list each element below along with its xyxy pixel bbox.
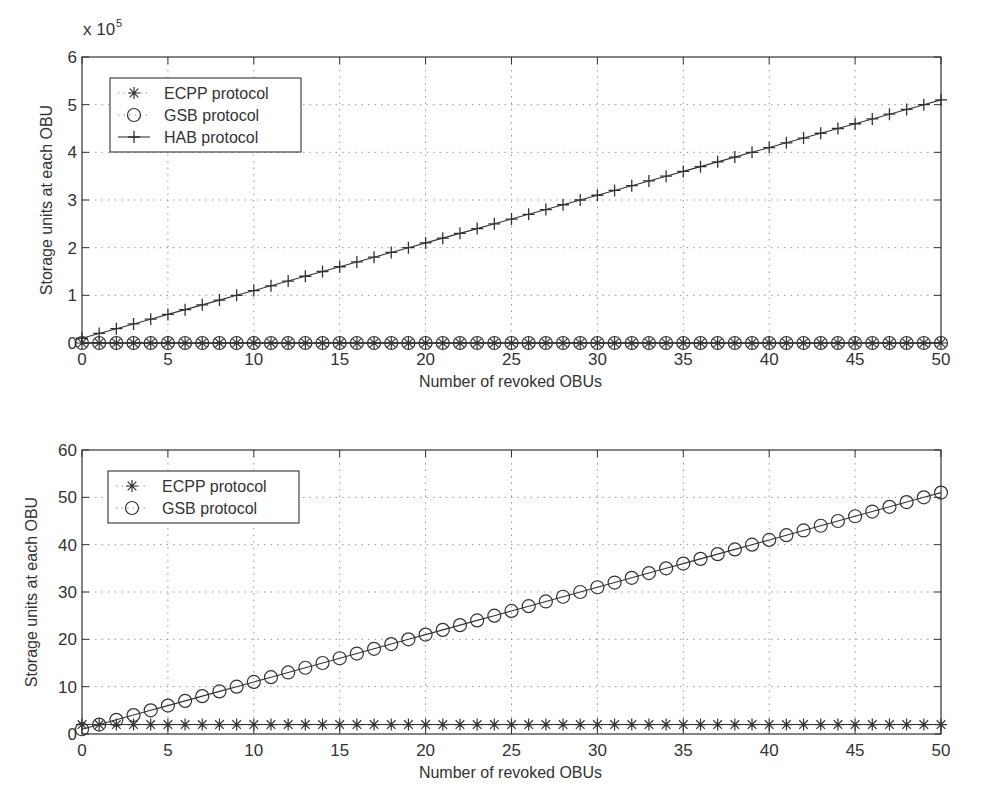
plus-marker-icon: [849, 118, 861, 130]
star-marker-icon: [488, 719, 500, 731]
legend-label: GSB protocol: [162, 500, 257, 517]
x-tick-label: 50: [932, 741, 951, 760]
x-tick-label: 20: [416, 350, 435, 369]
star-marker-icon: [248, 719, 260, 731]
x-tick-label: 10: [244, 741, 263, 760]
plus-marker-icon: [780, 137, 792, 149]
y-tick-label: 10: [58, 678, 77, 697]
legend-label: ECPP protocol: [164, 85, 269, 102]
plus-marker-icon: [334, 261, 346, 273]
plus-marker-icon: [437, 232, 449, 244]
star-marker-icon: [128, 87, 140, 99]
legend: ECPP protocolGSB protocol: [108, 471, 299, 523]
star-marker-icon: [368, 719, 380, 731]
y-tick-label: 1: [68, 286, 77, 305]
x-tick-label: 25: [502, 741, 521, 760]
star-marker-icon: [626, 719, 638, 731]
plus-marker-icon: [918, 99, 930, 111]
star-marker-icon: [763, 719, 775, 731]
legend: ECPP protocolGSB protocolHAB protocol: [110, 78, 301, 152]
x-tick-label: 5: [163, 350, 172, 369]
plus-marker-icon: [643, 175, 655, 187]
plus-marker-icon: [763, 142, 775, 154]
chart-top-storage-all-protocols: 051015202530354045500123456Number of rev…: [38, 17, 950, 390]
plus-marker-icon: [557, 199, 569, 211]
legend-label: GSB protocol: [164, 107, 259, 124]
star-marker-icon: [918, 719, 930, 731]
x-tick-label: 40: [760, 350, 779, 369]
plus-marker-icon: [798, 132, 810, 144]
y-axis-label: Storage units at each OBU: [23, 497, 40, 687]
x-tick-label: 15: [330, 741, 349, 760]
plus-marker-icon: [935, 94, 947, 106]
star-marker-icon: [643, 719, 655, 731]
star-marker-icon: [660, 719, 672, 731]
plus-marker-icon: [883, 108, 895, 120]
x-tick-label: 0: [77, 350, 86, 369]
x-tick-label: 30: [588, 350, 607, 369]
plus-marker-icon: [540, 204, 552, 216]
y-multiplier-label: x 10: [83, 20, 115, 39]
star-marker-icon: [591, 719, 603, 731]
plus-marker-icon: [591, 189, 603, 201]
plus-marker-icon: [832, 123, 844, 135]
x-tick-label: 35: [674, 741, 693, 760]
plus-marker-icon: [368, 251, 380, 263]
plus-marker-icon: [179, 304, 191, 316]
plus-marker-icon: [213, 294, 225, 306]
plus-marker-icon: [746, 146, 758, 158]
x-tick-label: 45: [846, 741, 865, 760]
x-tick-label: 40: [760, 741, 779, 760]
star-marker-icon: [866, 719, 878, 731]
y-tick-label: 2: [68, 239, 77, 258]
plus-marker-icon: [729, 151, 741, 163]
x-tick-label: 35: [674, 350, 693, 369]
plus-marker-icon: [299, 270, 311, 282]
star-marker-icon: [213, 719, 225, 731]
plus-marker-icon: [660, 170, 672, 182]
star-marker-icon: [935, 719, 947, 731]
plus-marker-icon: [574, 194, 586, 206]
plus-marker-icon: [677, 165, 689, 177]
plus-marker-icon: [162, 308, 174, 320]
plus-marker-icon: [128, 318, 140, 330]
plus-marker-icon: [866, 113, 878, 125]
legend-label: HAB protocol: [164, 129, 258, 146]
star-marker-icon: [832, 719, 844, 731]
star-marker-icon: [849, 719, 861, 731]
y-tick-label: 50: [58, 488, 77, 507]
x-tick-label: 15: [330, 350, 349, 369]
chart-bottom-storage-ecpp-gsb: 051015202530354045500102030405060Number …: [23, 441, 950, 781]
plus-marker-icon: [454, 227, 466, 239]
plus-marker-icon: [402, 242, 414, 254]
star-marker-icon: [471, 719, 483, 731]
plus-marker-icon: [815, 127, 827, 139]
y-axis-label: Storage units at each OBU: [38, 105, 55, 295]
plus-marker-icon: [385, 246, 397, 258]
star-marker-icon: [437, 719, 449, 731]
star-marker-icon: [540, 719, 552, 731]
star-marker-icon: [162, 719, 174, 731]
star-marker-icon: [677, 719, 689, 731]
star-marker-icon: [523, 719, 535, 731]
charts-canvas: 051015202530354045500123456Number of rev…: [0, 0, 981, 803]
plus-marker-icon: [351, 256, 363, 268]
star-marker-icon: [883, 719, 895, 731]
x-tick-label: 5: [163, 741, 172, 760]
y-tick-label: 40: [58, 536, 77, 555]
x-tick-label: 10: [244, 350, 263, 369]
plus-marker-icon: [420, 237, 432, 249]
x-tick-label: 25: [502, 350, 521, 369]
plus-marker-icon: [110, 323, 122, 335]
star-marker-icon: [402, 719, 414, 731]
x-tick-label: 50: [932, 350, 951, 369]
star-marker-icon: [609, 719, 621, 731]
star-marker-icon: [196, 719, 208, 731]
plus-marker-icon: [694, 161, 706, 173]
y-tick-label: 4: [68, 143, 77, 162]
plus-marker-icon: [231, 289, 243, 301]
star-marker-icon: [265, 719, 277, 731]
star-marker-icon: [712, 719, 724, 731]
star-marker-icon: [179, 719, 191, 731]
plus-marker-icon: [248, 285, 260, 297]
